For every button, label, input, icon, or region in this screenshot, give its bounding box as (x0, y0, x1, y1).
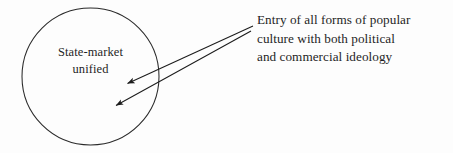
annotation-line-3: and commercial ideology (257, 48, 447, 67)
diagram-canvas: State-market unified Entry of all forms … (0, 0, 453, 153)
state-market-circle-label: State-market unified (22, 44, 159, 78)
entry-annotation-text: Entry of all forms of popular culture wi… (257, 11, 447, 67)
circle-label-line-1: State-market (22, 44, 159, 61)
annotation-line-2: culture with both political (257, 30, 447, 49)
annotation-line-1: Entry of all forms of popular (257, 11, 447, 30)
circle-label-line-2: unified (22, 61, 159, 78)
